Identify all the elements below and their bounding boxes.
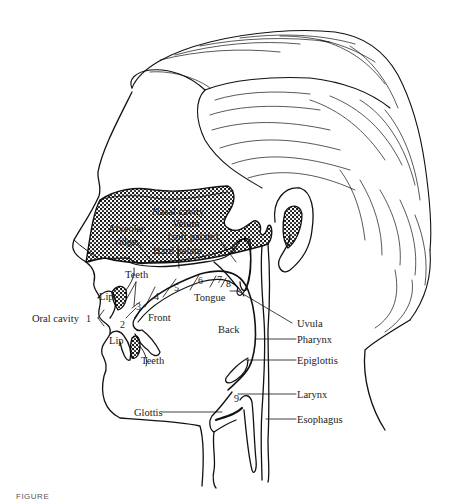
figure-caption: FIGURE (16, 492, 446, 501)
place-number-1: 1 (86, 314, 91, 324)
upper-teeth (112, 286, 127, 310)
epiglottis-shape (226, 358, 248, 383)
label-hard-palate: Hard palate (153, 246, 202, 257)
label-nasal-cavity: Nasal cavity (152, 207, 204, 218)
label-back: Back (218, 325, 240, 336)
place-number-2: 2 (120, 320, 125, 330)
label-tongue: Tongue (194, 293, 225, 304)
lower-teeth (131, 336, 141, 358)
label-esophagus: Esophagus (297, 415, 343, 426)
label-pharynx: Pharynx (297, 335, 332, 346)
label-larynx: Larynx (297, 390, 327, 401)
neck-back-outline (364, 320, 410, 430)
label-glottis: Glottis (134, 408, 163, 419)
label-front: Front (148, 313, 171, 324)
label-lip-upper: Lip (99, 292, 114, 303)
place-number-7: 7 (217, 275, 222, 285)
label-teeth-upper: Teeth (125, 270, 148, 281)
label-uvula: Uvula (297, 319, 323, 330)
place-number-9: 9 (234, 394, 239, 404)
label-lip-lower: Lip (109, 336, 124, 347)
label-oral-cavity: Oral cavity (32, 314, 79, 325)
place-number-5: 5 (174, 283, 179, 293)
place-number-8: 8 (226, 279, 231, 289)
label-soft-palate: (soft palate) (166, 232, 220, 243)
label-alveolar-ridge-line2: ridge (108, 237, 144, 248)
label-epiglottis: Epiglottis (297, 356, 338, 367)
place-number-4: 4 (154, 292, 159, 302)
place-number-6: 6 (198, 276, 203, 286)
leader-lines (98, 238, 296, 419)
label-alveolar-ridge-line1: Alveolar (108, 224, 144, 235)
label-teeth-lower: Teeth (141, 356, 164, 367)
label-velum: Velum (166, 219, 206, 230)
pharynx-wall (261, 246, 265, 480)
place-number-3: 3 (136, 302, 141, 312)
